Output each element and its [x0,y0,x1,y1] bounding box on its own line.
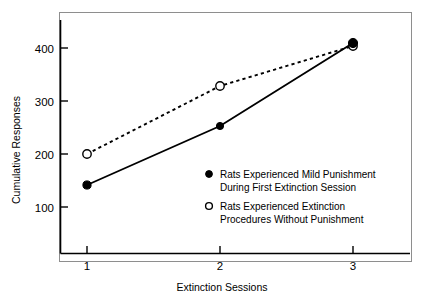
y-axis-title: Cumulative Responses [10,96,22,204]
line-chart: 400 300 200 100 1 2 3 Cumulative Respons… [0,0,426,306]
y-tick-label-200: 200 [35,149,54,161]
x-tick-label-3: 3 [350,260,356,272]
series-line-dashed [87,46,353,154]
legend-entry2-line1: Rats Experienced Extinction [220,201,345,212]
x-tick-label-1: 1 [84,260,90,272]
legend-entry1-line1: Rats Experienced Mild Punishment [220,169,376,180]
legend-marker-filled-circle-icon [206,171,213,178]
series-mild-punishment [83,38,358,189]
series-extinction-no-punishment [83,42,357,158]
legend-entry1-line2: During First Extinction Session [220,182,356,193]
data-point-open-s2 [216,82,224,90]
y-tick-label-100: 100 [35,202,54,214]
legend-entry2-line2: Procedures Without Punishment [220,214,364,225]
y-tick-group: 400 300 200 100 [35,43,68,214]
x-tick-label-2: 2 [217,260,223,272]
data-point-filled-s1 [83,181,91,189]
chart-legend: Rats Experienced Mild Punishment During … [206,169,376,225]
series-line-solid [87,43,353,185]
figure-container: 400 300 200 100 1 2 3 Cumulative Respons… [0,0,426,306]
y-tick-label-300: 300 [35,96,54,108]
data-point-filled-s2 [216,122,223,129]
x-tick-group: 1 2 3 [84,246,356,272]
data-point-open-s1 [83,150,91,158]
x-axis-title: Extinction Sessions [176,281,267,293]
y-tick-label-400: 400 [35,43,54,55]
data-point-filled-s3 [348,38,357,47]
legend-marker-open-circle-icon [206,203,213,210]
